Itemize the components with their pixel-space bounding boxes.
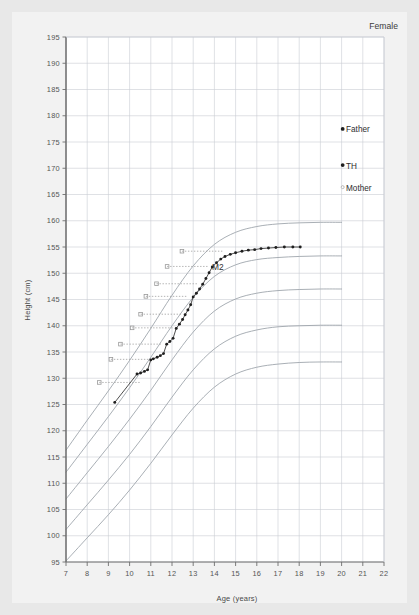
patient-data-point xyxy=(208,271,211,274)
y-axis-title: Height (cm) xyxy=(23,279,32,320)
x-axis-tick-label: 21 xyxy=(358,569,367,578)
patient-data-point xyxy=(247,249,250,252)
patient-data-point xyxy=(156,356,159,359)
mother-marker-dot xyxy=(341,186,344,189)
y-axis-tick-label: 195 xyxy=(47,33,60,42)
y-axis-tick-label: 175 xyxy=(47,138,60,147)
y-axis-tick-label: 125 xyxy=(47,400,60,409)
y-axis-tick-label: 185 xyxy=(47,85,60,94)
patient-data-point xyxy=(168,340,171,343)
y-axis-tick-label: 190 xyxy=(47,59,60,68)
patient-data-point xyxy=(136,373,139,376)
y-axis-tick-label: 160 xyxy=(47,216,60,225)
patient-data-point xyxy=(198,288,201,291)
y-axis-tick-label: 180 xyxy=(47,111,60,120)
y-axis-tick-label: 95 xyxy=(51,558,60,567)
y-axis-tick-label: 140 xyxy=(47,321,60,330)
grid-lines xyxy=(66,37,384,562)
y-axis-tick-label: 135 xyxy=(47,348,60,357)
x-axis-tick-label: 13 xyxy=(189,569,198,578)
patient-data-point xyxy=(152,357,155,360)
y-axis-tick-label: 165 xyxy=(47,190,60,199)
x-axis-tick-label: 10 xyxy=(125,569,134,578)
patient-data-point xyxy=(201,283,204,286)
father-marker-label: Father xyxy=(346,125,370,134)
y-axis-tick-label: 100 xyxy=(47,531,60,540)
patient-data-point xyxy=(204,277,207,280)
x-axis-tick-label: 12 xyxy=(168,569,177,578)
x-axis-title: Age (years) xyxy=(217,594,258,603)
patient-data-point xyxy=(283,246,286,249)
tanner-stage-label: M2 xyxy=(212,262,224,272)
y-axis-tick-label: 155 xyxy=(47,243,60,252)
patient-data-point xyxy=(178,323,181,326)
patient-data-point xyxy=(189,303,192,306)
x-axis-tick-label: 14 xyxy=(210,569,219,578)
x-axis-tick-label: 7 xyxy=(64,569,68,578)
x-axis-tick-label: 9 xyxy=(106,569,110,578)
patient-data-point xyxy=(224,255,227,258)
patient-data-point xyxy=(172,337,175,340)
growth-chart-page: M2 FatherTHMother 9510010511011512012513… xyxy=(0,0,419,615)
patient-data-point xyxy=(113,401,116,404)
growth-chart-figure: M2 FatherTHMother 9510010511011512012513… xyxy=(0,0,419,615)
patient-data-point xyxy=(260,247,263,250)
patient-data-point xyxy=(192,295,195,298)
patient-data-point xyxy=(175,327,178,330)
x-axis-tick-label: 20 xyxy=(337,569,346,578)
patient-data-point xyxy=(267,247,270,250)
x-axis-tick-label: 15 xyxy=(231,569,240,578)
patient-data-point xyxy=(299,246,302,249)
x-axis-tick-label: 11 xyxy=(147,569,155,578)
mother-marker-label: Mother xyxy=(346,184,372,193)
y-axis-tick-label: 110 xyxy=(47,479,60,488)
y-axis-tick-label: 120 xyxy=(47,426,60,435)
patient-data-point xyxy=(162,352,165,355)
patient-data-point xyxy=(253,248,256,251)
patient-data-point xyxy=(274,246,277,249)
patient-data-point xyxy=(165,343,168,346)
y-axis-tick-label: 170 xyxy=(47,164,60,173)
patient-data-point xyxy=(143,370,146,373)
patient-data-point xyxy=(146,368,149,371)
x-axis-tick-label: 22 xyxy=(380,569,389,578)
patient-data-point xyxy=(219,258,222,261)
y-axis-tick-label: 145 xyxy=(47,295,60,304)
father-marker-dot xyxy=(341,127,345,131)
y-axis-tick-label: 115 xyxy=(47,453,60,462)
patient-data-point xyxy=(241,250,244,253)
x-axis-tick-label: 8 xyxy=(85,569,89,578)
patient-data-point xyxy=(184,313,187,316)
patient-data-point xyxy=(139,372,142,375)
x-axis-tick-label: 18 xyxy=(295,569,304,578)
patient-data-point xyxy=(211,266,214,269)
sex-label: Female xyxy=(369,21,398,31)
patient-data-point xyxy=(159,354,162,357)
patient-data-point xyxy=(149,358,152,361)
y-axis-tick-label: 150 xyxy=(47,269,60,278)
target-height-marker-label: TH xyxy=(346,162,357,171)
y-axis-tick-label: 105 xyxy=(47,505,60,514)
patient-data-point xyxy=(234,251,237,254)
patient-data-point xyxy=(229,253,232,256)
patient-data-point xyxy=(186,309,189,312)
x-axis-tick-label: 19 xyxy=(316,569,325,578)
patient-data-point xyxy=(181,318,184,321)
patient-data-point xyxy=(215,261,218,264)
x-axis-tick-label: 16 xyxy=(252,569,261,578)
patient-data-point xyxy=(195,292,198,295)
patient-data-point xyxy=(291,246,294,249)
target-height-marker-dot xyxy=(341,163,345,167)
x-axis-tick-label: 17 xyxy=(274,569,283,578)
y-axis-tick-label: 130 xyxy=(47,374,60,383)
